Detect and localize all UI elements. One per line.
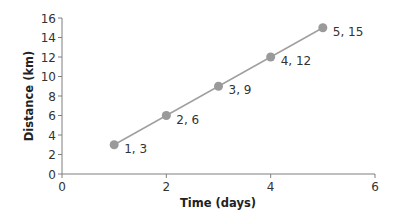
x-axis: 0246 — [58, 174, 379, 194]
y-tick-label: 10 — [41, 70, 56, 84]
y-axis: 0246810121416 — [41, 12, 62, 182]
y-tick-label: 8 — [48, 90, 56, 104]
data-point-marker — [162, 111, 171, 120]
y-tick-label: 16 — [41, 12, 56, 26]
data-point-marker — [110, 140, 119, 149]
x-tick-label: 0 — [58, 180, 66, 194]
data-point-marker — [266, 53, 275, 62]
data-point-label: 3, 9 — [229, 83, 252, 97]
data-point-label: 2, 6 — [176, 113, 199, 127]
y-tick-label: 0 — [48, 168, 56, 182]
x-tick-label: 2 — [163, 180, 171, 194]
data-point-marker — [214, 82, 223, 91]
data-point-label: 5, 15 — [333, 25, 364, 39]
data-point-label: 4, 12 — [281, 54, 312, 68]
x-axis-title: Time (days) — [180, 196, 256, 210]
y-tick-label: 4 — [48, 129, 56, 143]
y-tick-label: 14 — [41, 31, 56, 45]
data-point-marker — [318, 23, 327, 32]
data-series: 1, 32, 63, 94, 125, 15 — [110, 23, 364, 156]
y-tick-label: 12 — [41, 51, 56, 65]
y-axis-title: Distance (km) — [22, 51, 36, 142]
y-tick-label: 6 — [48, 109, 56, 123]
x-tick-label: 6 — [371, 180, 379, 194]
distance-time-chart: 0246810121416 0246 1, 32, 63, 94, 125, 1… — [0, 0, 400, 221]
data-point-label: 1, 3 — [124, 142, 147, 156]
x-tick-label: 4 — [267, 180, 275, 194]
y-tick-label: 2 — [48, 148, 56, 162]
